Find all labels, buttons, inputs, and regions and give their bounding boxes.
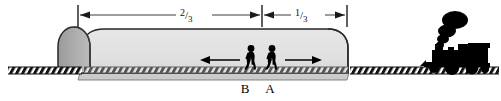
tunnel-ground-shadow	[78, 73, 349, 80]
locomotive-smokestack	[435, 44, 443, 52]
locomotive-wheel-drive	[445, 61, 459, 75]
locomotive-wheel-tender	[481, 65, 489, 73]
track-segment-left	[8, 67, 82, 74]
dimension-group: 2/3 1/3	[78, 5, 347, 27]
track-segment-tunnel	[84, 67, 348, 73]
tunnel-arch-face	[58, 27, 90, 73]
figure-canvas: 2/3 1/3	[0, 0, 501, 101]
dimension-label-left: 2/3	[180, 7, 193, 24]
locomotive-wheel-front	[429, 63, 439, 73]
locomotive-cab-roof	[468, 43, 490, 48]
tunnel-train-figure: 2/3 1/3	[0, 0, 501, 101]
dimension-label-right: 1/3	[295, 7, 308, 24]
locomotive-steam-dome	[448, 47, 454, 52]
walker-a-head	[269, 45, 276, 52]
dimension-arrowhead-right-start	[264, 12, 274, 19]
dimension-arrowhead-left-start	[80, 12, 90, 19]
dimension-right-segment: 1/3	[264, 7, 345, 24]
tunnel-body	[84, 29, 348, 73]
dimension-arrowhead-left-end	[250, 12, 260, 19]
steam-locomotive	[420, 11, 490, 75]
dimension-arrowhead-right-end	[335, 12, 345, 19]
label-point-b: B	[241, 81, 250, 96]
locomotive-smoke	[436, 11, 468, 48]
locomotive-wheel-rear	[466, 62, 479, 75]
dimension-left-segment: 2/3	[80, 7, 260, 24]
label-point-a: A	[265, 81, 275, 96]
railroad-track-group	[8, 67, 499, 74]
walker-b-head	[248, 45, 255, 52]
